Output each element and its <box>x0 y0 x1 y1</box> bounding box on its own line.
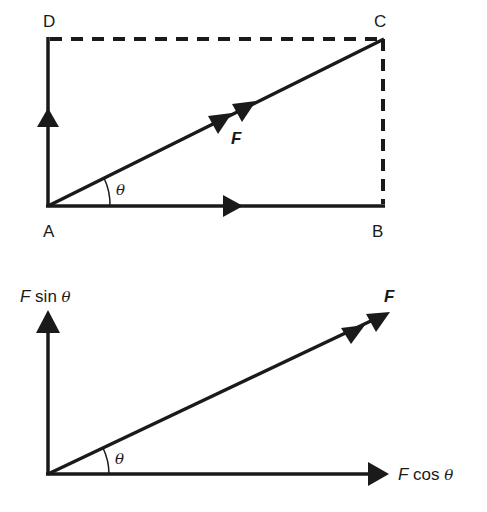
force-resolution-diagram: θ F D C A B θ F F sin θ F cos θ <box>0 0 487 512</box>
angle-arc-top <box>104 178 110 206</box>
force-label-top: F <box>231 129 242 148</box>
arrowhead-ab <box>223 195 243 217</box>
horizontal-component-label: F cos θ <box>398 465 453 484</box>
point-label-a: A <box>43 222 55 241</box>
vertical-component-arrowhead <box>36 310 60 333</box>
angle-arc-bottom <box>103 448 109 474</box>
force-label-bottom: F <box>384 287 395 306</box>
angle-label-top: θ <box>116 181 125 199</box>
top-parallelogram-diagram: θ F D C A B <box>37 12 386 241</box>
point-label-c: C <box>374 12 386 31</box>
horizontal-component-func: cos <box>408 465 444 484</box>
resultant-force-line <box>48 319 375 474</box>
point-label-b: B <box>372 222 383 241</box>
horizontal-component-arrowhead <box>368 462 389 486</box>
bottom-components-diagram: θ F F sin θ F cos θ <box>20 287 453 486</box>
vertical-component-func: sin <box>30 287 61 306</box>
horizontal-component-angle: θ <box>444 466 453 484</box>
point-label-d: D <box>43 12 55 31</box>
arrowhead-ad <box>37 108 59 127</box>
resultant-double-arrowhead <box>341 312 390 344</box>
vertical-component-label: F sin θ <box>20 287 71 306</box>
angle-label-bottom: θ <box>115 450 124 468</box>
vertical-component-angle: θ <box>62 288 71 306</box>
